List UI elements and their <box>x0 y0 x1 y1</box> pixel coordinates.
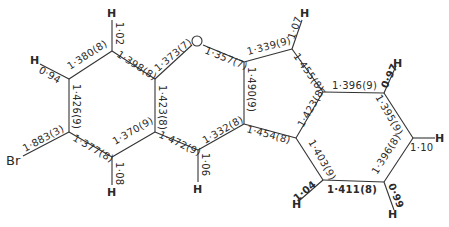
bond-length-label: 1·339(9) <box>246 35 293 57</box>
hydrogen-label: H <box>107 7 116 20</box>
bond-length-label: 1·395(9) <box>373 93 405 138</box>
bond-length-label: 1·883(3) <box>21 123 66 154</box>
bond-length-label: 1·332(8) <box>201 114 246 146</box>
hydrogen-label: H <box>435 132 444 145</box>
bond-length-label: 1·454(8) <box>245 123 292 145</box>
bond-length-label: 1·472(9) <box>157 129 203 158</box>
bond-length-label: 1·403(9) <box>306 138 338 183</box>
bond-length-label: 1·373(7) <box>152 36 194 73</box>
bond-length-label: 1·396(8) <box>369 132 402 176</box>
bond-length-label: 1·370(9) <box>111 115 156 147</box>
bond <box>323 92 384 93</box>
bond-length-label: 1·423(8) <box>295 84 327 129</box>
bond <box>323 180 384 182</box>
bond-length-label: 1·08 <box>114 162 125 185</box>
bond-length-label: 1·04 <box>291 178 318 203</box>
hydrogen-label: H <box>30 54 39 67</box>
bromine-atom-label: Br <box>6 153 21 168</box>
bond-length-label: 1·357(7) <box>203 45 249 72</box>
bond-length-label: 1·423(8) <box>157 85 168 130</box>
bond-length-label: 1·411(8) <box>327 184 377 195</box>
bond-length-label: 1·02 <box>114 22 125 45</box>
bond-length-label: 1·490(9) <box>246 67 257 112</box>
hydrogen-label: H <box>388 208 397 221</box>
bond-length-label: 1·426(9) <box>71 84 82 129</box>
bond-length-label: 1·377(8) <box>71 132 116 164</box>
hydrogen-label: H <box>107 186 116 199</box>
molecular-structure-diagram: Br H H H H H H H H H 1·380(8) 1·398(8) 1… <box>0 0 449 227</box>
bond-length-label: 1·06 <box>200 153 211 176</box>
hydrogen-label: H <box>193 183 202 196</box>
bond-length-label: 1·10 <box>410 142 433 153</box>
bond-length-label: 0·94 <box>37 64 63 85</box>
ring-a-bonds <box>23 20 155 185</box>
bond-length-label: 0·97 <box>379 62 400 90</box>
bond-length-label: 1·07 <box>286 15 304 41</box>
bond-length-label: 1·396(9) <box>332 80 377 91</box>
